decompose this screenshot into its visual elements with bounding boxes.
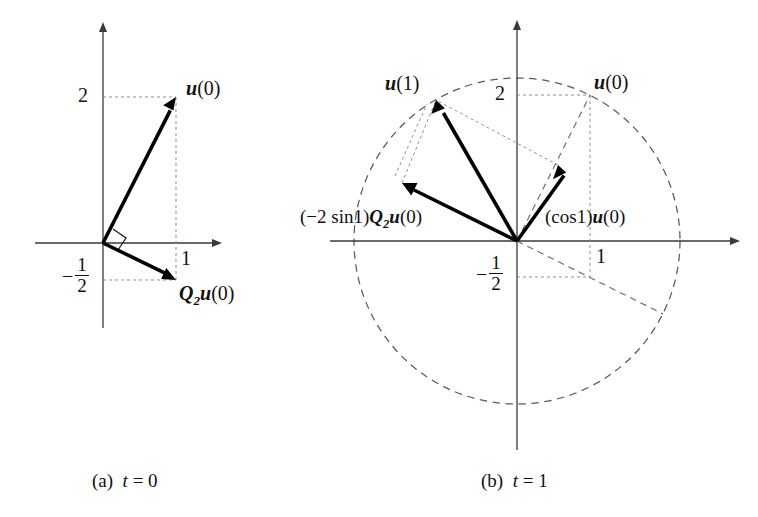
panel-b-y-tick-2: 2 [495, 83, 505, 103]
panel-a-neg-half-denominator: 2 [75, 275, 89, 296]
panel-b-cos1u0-argument: (0) [603, 206, 625, 227]
panel-b-cos1-coefficient: (cos1) [545, 206, 592, 227]
panel-b-x-tick-1: 1 [596, 246, 606, 266]
panel-b-vector-cos1u0-label: (cos1)u(0) [545, 207, 625, 226]
panel-b-caption-value: = 1 [523, 470, 548, 491]
panel-b-neg-half-numerator: 1 [489, 253, 503, 273]
panel-a-neg-half-numerator: 1 [75, 255, 89, 275]
panel-b-caption-variable: t [513, 470, 518, 491]
panel-b-neg-half-fraction: 12 [489, 253, 503, 294]
panel-a-caption-variable: t [123, 470, 128, 491]
panel-a-vector-u0-label: u(0) [186, 78, 220, 98]
panel-b-u1-symbol: u [385, 72, 396, 94]
panel-b-caption: (b) t = 1 [481, 471, 548, 490]
panel-b-neg2sin1-q-symbol: Q [369, 206, 383, 227]
panel-b-parallelogram-side-c [395, 104, 427, 176]
panel-a-neg-half-fraction: 12 [75, 255, 89, 296]
panel-b-neg-half-minus: − [476, 264, 487, 284]
panel-b-u1-argument: (1) [396, 72, 419, 94]
panel-a-vector-q2u0-label: Q2u(0) [179, 283, 235, 307]
panel-b-cos1u0-u-symbol: u [592, 206, 603, 227]
panel-a-neg-half-minus: − [62, 266, 73, 286]
panel-b-vector-u0-label: u(0) [594, 72, 628, 92]
panel-b-vector-u1-arrowhead [431, 100, 445, 114]
panel-b-neg2sin1-coefficient: (−2 sin1) [300, 206, 369, 227]
panel-b-neg-half-denominator: 2 [489, 273, 503, 294]
panel-a-vector-q2u0-shaft [103, 243, 165, 273]
panel-a-q2u0-argument: (0) [211, 282, 234, 304]
panel-a-y-tick-neg-half: −12 [62, 256, 89, 297]
panel-a-x-axis-arrowhead [212, 239, 222, 247]
panel-b-u0-argument: (0) [605, 71, 628, 93]
panel-a-q2u0-u-symbol: u [200, 282, 211, 304]
panel-a-u0-argument: (0) [197, 77, 220, 99]
figure-root: 2 1 −12 u(0) Q2u(0) 2 1 −12 u(1) u(0) (c… [0, 0, 758, 517]
panel-a-caption: (a) t = 0 [92, 471, 158, 490]
panel-b-parallelogram-side-b [402, 100, 436, 183]
panel-b-neg2sin1-u-symbol: u [389, 206, 400, 227]
panel-b-caption-index: (b) [481, 470, 503, 491]
panel-b-vector-u1-label: u(1) [385, 73, 419, 93]
panel-a-vector-u0-shaft [103, 110, 170, 243]
panel-b-vector-neg2sin1q2u0-label: (−2 sin1)Q2u(0) [300, 207, 422, 230]
panel-a-caption-index: (a) [92, 470, 113, 491]
panel-b-neg2sin1-argument: (0) [400, 206, 422, 227]
panel-b-y-tick-neg-half: −12 [476, 254, 503, 295]
figure-canvas [0, 0, 758, 517]
panel-a-q2-symbol: Q [179, 282, 193, 304]
panel-b-u0-symbol: u [594, 71, 605, 93]
panel-a-caption-value: = 0 [133, 470, 158, 491]
panel-b-x-axis-arrowhead [730, 237, 740, 245]
panel-b-y-axis-arrowhead [513, 20, 521, 30]
panel-a-y-axis-arrowhead [99, 22, 107, 32]
panel-a-x-tick-1: 1 [181, 248, 191, 268]
panel-a-y-tick-2: 2 [78, 85, 88, 105]
panel-a-u0-symbol: u [186, 77, 197, 99]
panel-a-vector-u0-arrowhead [163, 97, 176, 110]
